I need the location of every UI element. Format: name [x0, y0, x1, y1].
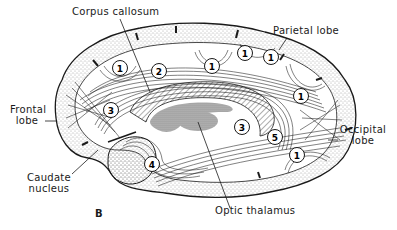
marker-1d: 1 [264, 50, 279, 65]
svg-text:3: 3 [239, 123, 245, 133]
label-caudate-line2: nucleus [26, 183, 72, 194]
marker-3a: 3 [104, 103, 119, 118]
label-caudate-line1: Caudate [26, 172, 72, 183]
svg-text:1: 1 [209, 62, 215, 72]
svg-text:5: 5 [272, 133, 278, 143]
label-caudate-nucleus: Caudate nucleus [26, 172, 72, 194]
marker-1a: 1 [113, 61, 128, 76]
svg-text:3: 3 [108, 106, 114, 116]
marker-1e: 1 [294, 89, 309, 104]
marker-2: 2 [152, 64, 167, 79]
label-occipital-lobe: Occipital lobe [338, 124, 388, 146]
marker-3b: 3 [235, 120, 250, 135]
label-occipital-line1: Occipital [338, 124, 388, 135]
svg-text:4: 4 [149, 160, 155, 170]
svg-text:1: 1 [298, 92, 304, 102]
svg-text:2: 2 [156, 67, 162, 77]
label-corpus-callosum: Corpus callosum [72, 6, 159, 17]
label-parietal-lobe: Parietal lobe [273, 25, 339, 36]
brain-association-fibers-diagram: 1 1 1 1 1 1 2 3 3 4 5 Corpus callosum Pa… [0, 0, 397, 230]
svg-text:1: 1 [294, 151, 300, 161]
label-optic-thalamus: Optic thalamus [215, 205, 295, 216]
marker-5: 5 [268, 130, 283, 145]
marker-1f: 1 [290, 148, 305, 163]
panel-label: B [95, 208, 103, 219]
label-occipital-line2: lobe [338, 135, 388, 146]
marker-1c: 1 [238, 46, 253, 61]
label-frontal-lobe: Frontal lobe [10, 104, 44, 126]
svg-text:1: 1 [242, 49, 248, 59]
marker-4: 4 [145, 157, 160, 172]
label-frontal-lobe-line2: lobe [10, 115, 44, 126]
svg-text:1: 1 [117, 64, 123, 74]
svg-text:1: 1 [268, 53, 274, 63]
label-frontal-lobe-line1: Frontal [10, 104, 44, 115]
marker-1b: 1 [205, 59, 220, 74]
